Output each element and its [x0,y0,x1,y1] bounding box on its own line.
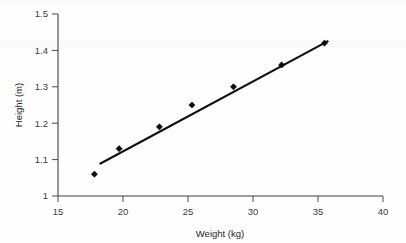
line-of-best-fit [100,41,329,164]
x-tick-label: 15 [53,206,64,217]
data-point-marker [116,146,122,152]
x-tick-label: 40 [378,206,389,217]
scatter-plot: 11.11.21.31.41.5 152025303540 Weight (kg… [0,0,406,243]
y-tick-label: 1.2 [35,118,48,129]
x-tick-label: 25 [183,206,194,217]
chart-figure: 11.11.21.31.41.5 152025303540 Weight (kg… [0,0,406,243]
y-axis-ticks: 11.11.21.31.41.5 [35,8,58,201]
y-tick-label: 1 [43,190,48,201]
x-tick-label: 20 [118,206,129,217]
data-point-marker [230,84,236,90]
y-axis-title: Height (m) [13,83,24,127]
y-tick-label: 1.3 [35,81,48,92]
data-point-marker [91,171,97,177]
x-axis-title: Weight (kg) [196,228,244,239]
x-axis-ticks: 152025303540 [53,196,389,217]
y-tick-label: 1.5 [35,8,48,19]
y-tick-label: 1.1 [35,154,48,165]
x-tick-label: 35 [313,206,324,217]
data-point-marker [189,102,195,108]
data-point-marker [156,124,162,130]
y-tick-label: 1.4 [35,45,48,56]
x-tick-label: 30 [248,206,259,217]
